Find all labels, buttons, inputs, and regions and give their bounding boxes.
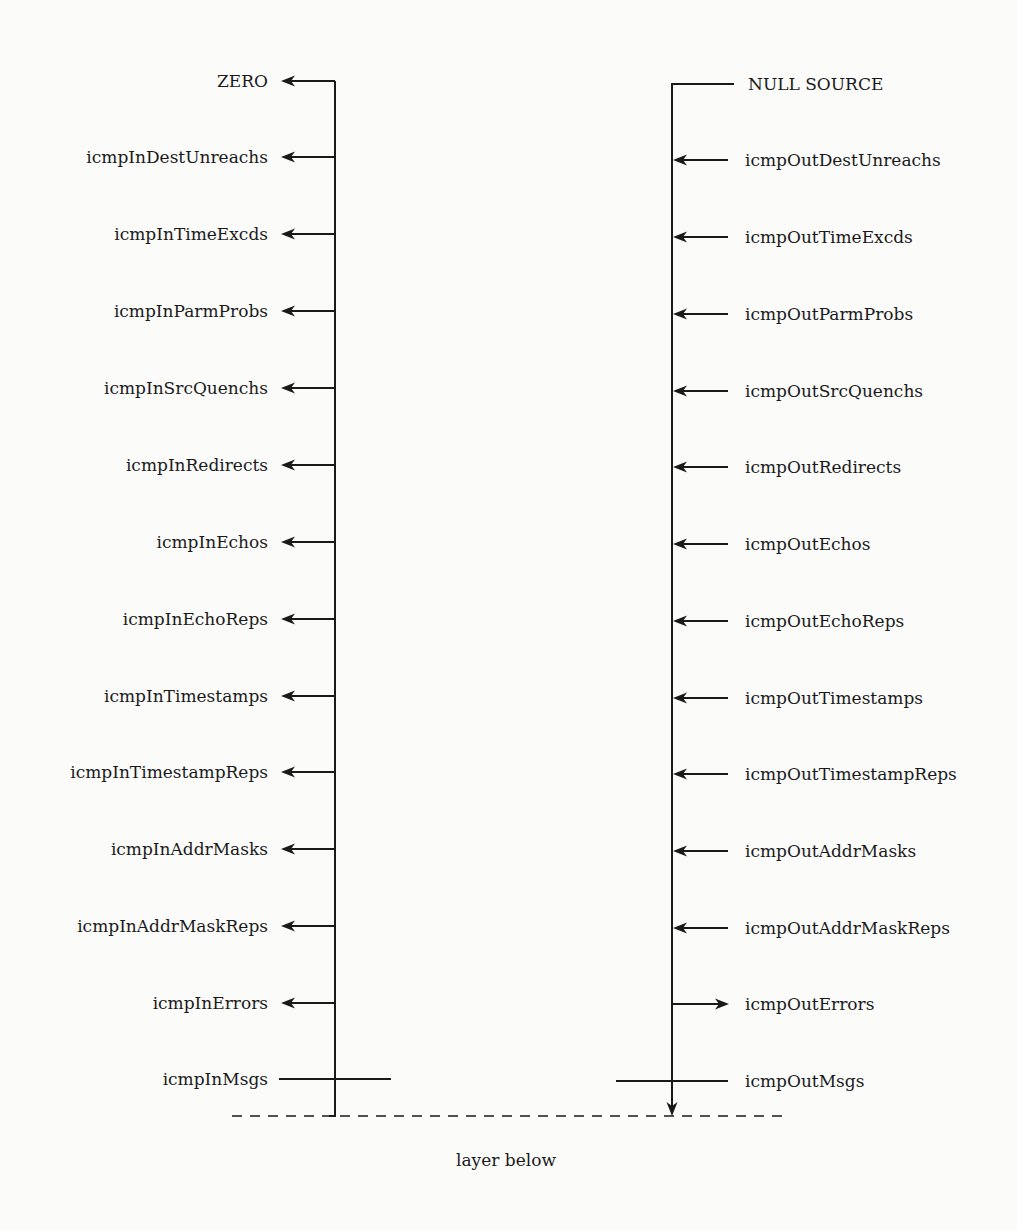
counter-label: icmpOutSrcQuenchs [745,381,923,401]
counter-icmpintimeexcds: icmpInTimeExcds [114,224,335,244]
layer-boundary: layer below [232,1116,785,1170]
counter-icmpoutaddrmaskreps: icmpOutAddrMaskReps [673,918,950,938]
counter-icmpinsrcquenchs: icmpInSrcQuenchs [104,378,335,398]
counter-label: icmpInEchoReps [123,609,268,629]
counter-label: icmpOutAddrMaskReps [745,918,950,938]
incoming-path: ZEROicmpInDestUnreachsicmpInTimeExcdsicm… [70,71,391,1116]
counter-label: icmpInTimeExcds [114,224,268,244]
counter-label: icmpOutParmProbs [745,304,913,324]
counter-icmpinredirects: icmpInRedirects [126,455,335,475]
counter-label: icmpInAddrMasks [111,839,268,859]
counter-icmpouterrors: icmpOutErrors [672,994,874,1014]
counter-icmpoutsrcquenchs: icmpOutSrcQuenchs [673,381,923,401]
counter-icmpoutechos: icmpOutEchos [673,534,871,554]
counter-icmpinechos: icmpInEchos [157,532,335,552]
counter-label: icmpOutDestUnreachs [745,150,941,170]
counter-icmpinaddrmaskreps: icmpInAddrMaskReps [77,916,335,936]
counter-label: icmpInErrors [153,993,268,1013]
counter-label: icmpInSrcQuenchs [104,378,268,398]
counter-label: NULL SOURCE [748,74,883,94]
counter-label: icmpOutEchos [745,534,871,554]
counter-icmpindestunreachs: icmpInDestUnreachs [86,147,335,167]
counter-icmpinaddrmasks: icmpInAddrMasks [111,839,335,859]
counter-icmpintimestamps: icmpInTimestamps [104,686,335,706]
counter-label: icmpOutTimestampReps [745,764,957,784]
counter-label: icmpOutAddrMasks [745,841,916,861]
counter-label: icmpOutErrors [745,994,874,1014]
counter-icmpinerrors: icmpInErrors [153,993,335,1013]
counter-zero: ZERO [217,71,335,91]
counter-label: icmpInMsgs [163,1069,268,1089]
counter-icmpoutparmprobs: icmpOutParmProbs [673,304,913,324]
counter-icmpoutmsgs: icmpOutMsgs [616,1071,864,1091]
counter-label: icmpOutTimeExcds [745,227,913,247]
counter-label: icmpInEchos [157,532,268,552]
counter-icmpinmsgs: icmpInMsgs [163,1069,391,1089]
counter-icmpinechoreps: icmpInEchoReps [123,609,335,629]
counter-label: ZERO [217,71,268,91]
counter-label: icmpInRedirects [126,455,268,475]
icmp-counter-flow-diagram: ZEROicmpInDestUnreachsicmpInTimeExcdsicm… [0,0,1017,1230]
counter-icmpoutechoreps: icmpOutEchoReps [673,611,904,631]
counter-icmpouttimestamps: icmpOutTimestamps [673,688,923,708]
counter-label: icmpInParmProbs [114,301,268,321]
counter-icmpinparmprobs: icmpInParmProbs [114,301,335,321]
counter-label: icmpOutEchoReps [745,611,904,631]
counter-label: icmpInDestUnreachs [86,147,268,167]
counter-label: icmpInAddrMaskReps [77,916,268,936]
layer-below-label: layer below [456,1150,556,1170]
counter-icmpouttimestampreps: icmpOutTimestampReps [673,764,957,784]
counter-label: icmpInTimestampReps [70,762,268,782]
counter-icmpintimestampreps: icmpInTimestampReps [70,762,335,782]
counter-label: icmpInTimestamps [104,686,268,706]
counter-label: icmpOutMsgs [745,1071,864,1091]
counter-label: icmpOutTimestamps [745,688,923,708]
counter-icmpoutdestunreachs: icmpOutDestUnreachs [673,150,941,170]
outgoing-path: NULL SOURCEicmpOutDestUnreachsicmpOutTim… [616,74,957,1116]
counter-null-source: NULL SOURCE [671,74,883,94]
counter-label: icmpOutRedirects [745,457,901,477]
counter-icmpoutaddrmasks: icmpOutAddrMasks [673,841,916,861]
counter-icmpouttimeexcds: icmpOutTimeExcds [673,227,913,247]
counter-icmpoutredirects: icmpOutRedirects [673,457,901,477]
